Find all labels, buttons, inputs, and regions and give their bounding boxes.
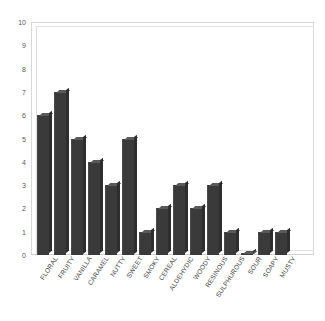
y-axis-tick-label: 3 xyxy=(22,182,26,189)
x-axis: FLORALFRUITYVANILLACARAMELNUTTYSWEETSMOK… xyxy=(31,255,325,321)
bar-slot xyxy=(258,22,275,255)
bar-slot xyxy=(71,22,88,255)
bar[interactable] xyxy=(105,185,117,255)
bar-slot xyxy=(88,22,105,255)
bar-slot xyxy=(207,22,224,255)
y-axis-tick-label: 9 xyxy=(22,42,26,49)
bar[interactable] xyxy=(54,92,66,255)
x-axis-tick-label: SOUR xyxy=(246,255,263,275)
bar-slot xyxy=(105,22,122,255)
bar[interactable] xyxy=(258,232,270,255)
y-axis-tick-label: 4 xyxy=(22,158,26,165)
y-axis: 109876543210 xyxy=(0,0,31,321)
bar[interactable] xyxy=(122,139,134,256)
bar-slot xyxy=(139,22,156,255)
y-axis-tick-label: 2 xyxy=(22,205,26,212)
bar[interactable] xyxy=(173,185,185,255)
bar-slot xyxy=(275,22,292,255)
bar[interactable] xyxy=(71,139,83,256)
y-axis-tick-label: 7 xyxy=(22,88,26,95)
bar-slot xyxy=(173,22,190,255)
bar[interactable] xyxy=(275,232,287,255)
bar-slot xyxy=(190,22,207,255)
bar-slot xyxy=(122,22,139,255)
y-axis-tick-label: 1 xyxy=(22,228,26,235)
bar-slot xyxy=(224,22,241,255)
bar[interactable] xyxy=(207,185,219,255)
x-axis-tick-label: SOAPY xyxy=(261,255,280,278)
y-axis-tick-label: 0 xyxy=(22,252,26,259)
y-axis-tick-label: 5 xyxy=(22,135,26,142)
x-axis-tick-label: FLORAL xyxy=(39,255,59,281)
bar-slot xyxy=(54,22,71,255)
y-axis-tick-label: 8 xyxy=(22,65,26,72)
bar[interactable] xyxy=(37,115,49,255)
bars-layer xyxy=(31,22,314,255)
bar-slot xyxy=(37,22,54,255)
bar[interactable] xyxy=(139,232,151,255)
bar-slot xyxy=(156,22,173,255)
x-axis-tick-label: MUSTY xyxy=(278,255,297,279)
bar-slot xyxy=(241,22,258,255)
bar-chart: 109876543210 FLORALFRUITYVANILLACARAMELN… xyxy=(0,0,325,321)
bar[interactable] xyxy=(156,208,168,255)
bar[interactable] xyxy=(190,208,202,255)
bar[interactable] xyxy=(88,162,100,255)
y-axis-tick-label: 6 xyxy=(22,112,26,119)
y-axis-tick-label: 10 xyxy=(18,19,26,26)
bar[interactable] xyxy=(224,232,236,255)
